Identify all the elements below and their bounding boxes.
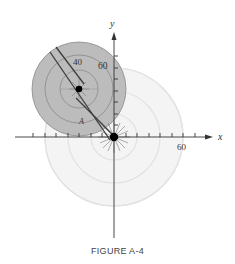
point-label-a: A [78,117,84,126]
figure-diagram: x y 60 60 40 A [0,0,235,264]
y-axis-arrow-icon [112,32,117,40]
y-axis-label: y [109,18,115,29]
figure-caption: FIGURE A-4 [0,246,235,256]
ring-label-40: 40 [73,57,83,67]
x-axis-label: x [217,131,223,142]
center-point [76,86,83,93]
x-axis-arrow-icon [205,135,213,140]
x-tick-label-60: 60 [177,142,187,152]
y-tick-label-60: 60 [98,61,108,71]
origin-point [110,133,118,141]
